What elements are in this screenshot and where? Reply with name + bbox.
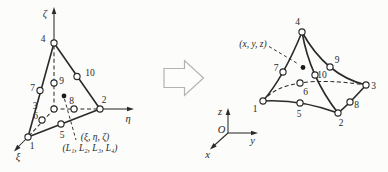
right-node-label-9: 9: [335, 55, 340, 65]
right-node-label-2: 2: [339, 118, 344, 128]
left-node-label-6: 6: [33, 111, 38, 121]
right-node-label-6: 6: [303, 87, 308, 97]
right-node-marker-4: [299, 29, 305, 35]
left-node-label-5: 5: [60, 130, 65, 140]
left-node-marker-5: [58, 121, 64, 127]
left-sample-point: [62, 94, 67, 99]
right-edge-1-4: [263, 32, 302, 101]
right-figure: 1 2 3 4 5 6 7 8 9 10 (x, y, z) z y x O: [204, 17, 376, 160]
xi-axis-label: ξ: [16, 151, 21, 163]
right-node-label-5: 5: [297, 109, 302, 119]
zeta-axis-arrow-icon: [52, 7, 57, 14]
left-node-label-4: 4: [41, 34, 46, 44]
right-sample-point: [301, 65, 306, 70]
left-caption-natural-coords: (ξ, η, ζ): [81, 132, 109, 143]
eta-axis-arrow-icon: [127, 107, 134, 112]
left-node-label-8: 8: [69, 96, 74, 106]
right-node-marker-6: [297, 80, 303, 86]
left-node-label-7: 7: [30, 83, 35, 93]
left-node-marker-3: [51, 106, 57, 112]
z-axis-label: z: [217, 106, 222, 117]
left-node-label-9: 9: [59, 76, 64, 86]
left-node-marker-4: [51, 40, 57, 46]
right-node-label-4: 4: [295, 17, 300, 27]
right-node-marker-9: [327, 64, 333, 70]
eta-axis-label: η: [125, 113, 130, 124]
right-node-marker-3: [363, 82, 369, 88]
right-node-label-3: 3: [371, 81, 376, 91]
left-node-marker-9: [51, 80, 57, 86]
left-figure: 1 2 3 4 5 6 7 8 9 10 ζ η ξ (ξ, η, ζ) (L₁…: [12, 7, 134, 163]
left-node-marker-6: [39, 117, 45, 123]
right-caption-leader: [269, 47, 298, 64]
zeta-axis-label: ζ: [43, 8, 48, 20]
left-node-marker-7: [37, 87, 43, 93]
y-axis-label: y: [249, 135, 255, 146]
figure-canvas: 1 2 3 4 5 6 7 8 9 10 ζ η ξ (ξ, η, ζ) (L₁…: [0, 0, 388, 172]
left-node-label-1: 1: [30, 141, 35, 151]
right-hidden-edge-1-3: [263, 81, 366, 101]
right-node-label-10: 10: [317, 70, 327, 80]
left-node-marker-1: [25, 134, 31, 140]
tetrahedron-mapping-diagram: 1 2 3 4 5 6 7 8 9 10 ζ η ξ (ξ, η, ζ) (L₁…: [0, 0, 388, 172]
left-node-marker-2: [97, 106, 103, 112]
left-node-label-10: 10: [85, 68, 95, 78]
right-node-marker-2: [335, 110, 341, 116]
x-axis: [213, 133, 228, 147]
right-node-label-7: 7: [274, 63, 279, 73]
right-node-marker-8: [347, 99, 353, 105]
z-axis-arrow-icon: [226, 108, 231, 115]
right-caption-global-coords: (x, y, z): [239, 39, 266, 50]
right-node-label-1: 1: [253, 104, 258, 114]
left-node-marker-10: [74, 73, 80, 79]
left-node-label-3: 3: [33, 101, 38, 111]
right-node-marker-1: [260, 98, 266, 104]
right-node-marker-7: [280, 69, 286, 75]
right-node-label-8: 8: [354, 100, 359, 110]
origin-label: O: [218, 124, 226, 135]
right-node-marker-5: [297, 100, 303, 106]
left-caption-volume-coords: (L₁, L₂, L₃, L₄): [63, 143, 118, 154]
left-node-marker-8: [71, 106, 77, 112]
x-axis-label: x: [204, 149, 210, 160]
transform-arrow-icon: [164, 61, 204, 96]
left-node-label-2: 2: [102, 95, 107, 105]
